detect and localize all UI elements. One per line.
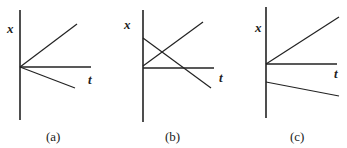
panel-caption: (c) (290, 129, 304, 144)
panel-b: xt(b) (123, 10, 223, 144)
x-axis-label: t (219, 70, 223, 85)
rising-line (266, 17, 339, 64)
rising-line (20, 24, 77, 67)
figure: xt(a)xt(b)xt(c) (0, 0, 347, 148)
y-axis-label: x (254, 20, 262, 35)
x-axis-label: t (88, 72, 92, 87)
falling-line (20, 67, 75, 88)
falling-line (143, 38, 211, 88)
panel-a: xt(a) (6, 10, 92, 144)
falling-line (266, 82, 339, 96)
y-axis-label: x (6, 21, 14, 36)
position-time-graphs: xt(a)xt(b)xt(c) (0, 0, 347, 148)
panel-caption: (a) (46, 129, 60, 144)
x-axis-label: t (334, 66, 338, 81)
panel-c: xt(c) (254, 7, 339, 144)
panel-caption: (b) (165, 129, 180, 144)
y-axis-label: x (123, 17, 131, 32)
